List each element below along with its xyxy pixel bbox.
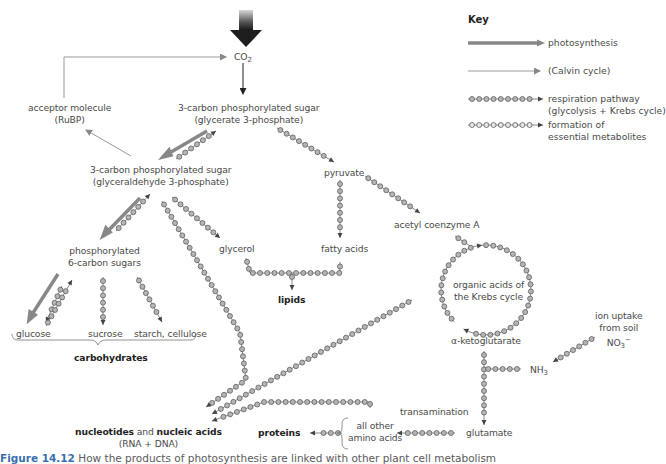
glyceraldehyde-3-phosphate-label: 3-carbon phosphorylated sugar(glyceralde… xyxy=(90,164,232,188)
key-title: Key xyxy=(468,14,489,25)
ion-uptake-label: ion uptake from soil NO3− xyxy=(595,310,642,352)
glycerate-3-phosphate-label: 3-carbon phosphorylated sugar(glycerate … xyxy=(178,102,320,126)
key-swatches xyxy=(468,40,545,72)
acetyl-coenzyme-a-label: acetyl coenzyme A xyxy=(394,219,479,231)
transamination-label: transamination xyxy=(400,406,468,418)
fatty-acids-label: fatty acids xyxy=(321,243,368,255)
pyruvate-label: pyruvate xyxy=(324,167,364,179)
starch-cellulose-label: starch, cellulose xyxy=(134,328,207,340)
alpha-ketoglutarate-label: α-ketoglutarate xyxy=(451,335,521,347)
acceptor-molecule-label: acceptor molecule(RuBP) xyxy=(28,102,111,126)
figure-caption: Figure 14.12 How the products of photosy… xyxy=(0,452,496,464)
krebs-cycle-label: organic acids ofthe Krebs cycle xyxy=(453,279,524,303)
proteins-label: proteins xyxy=(258,427,300,439)
glutamate-label: glutamate xyxy=(466,427,512,439)
other-amino-acids-label: all otheramino acids xyxy=(348,420,402,444)
co2-label: CO2 xyxy=(234,51,252,66)
glucose-label: glucose xyxy=(16,328,51,340)
nh3-label: NH3 xyxy=(530,364,548,379)
key-respiration-label: respiration pathway(glycolysis + Krebs c… xyxy=(548,93,666,117)
sucrose-label: sucrose xyxy=(88,328,123,340)
carbohydrates-label: carbohydrates xyxy=(74,352,148,364)
key-photosynthesis-label: photosynthesis xyxy=(548,37,618,49)
key-essential-metabolites-label: formation ofessential metabolites xyxy=(548,119,646,143)
glycerol-label: glycerol xyxy=(219,243,254,255)
nucleotides-nucleic-acids-label: nucleotides and nucleic acids (RNA + DNA… xyxy=(75,426,222,450)
amino-acids-brace xyxy=(337,418,348,449)
phosphorylated-6-carbon-sugars-label: phosphorylated6-carbon sugars xyxy=(68,245,141,269)
key-calvin-cycle-label: (Calvin cycle) xyxy=(548,65,610,77)
co2-input-arrow-icon xyxy=(230,10,262,47)
lipids-label: lipids xyxy=(278,294,305,306)
